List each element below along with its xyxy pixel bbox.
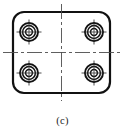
figure-caption: (c) — [0, 114, 125, 128]
figure-container: (c) — [0, 0, 125, 140]
technical-drawing — [0, 0, 125, 112]
